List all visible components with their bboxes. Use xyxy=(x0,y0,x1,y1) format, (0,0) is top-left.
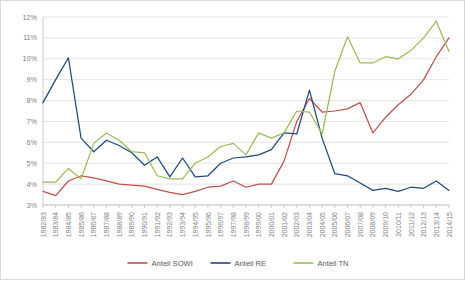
x-tick-label: 1993/94 xyxy=(179,212,186,237)
x-tick-label: 2004/05 xyxy=(319,212,326,237)
legend-label-anteil-re: Anteil RE xyxy=(235,259,267,268)
series-line-anteil-sowi xyxy=(43,38,449,196)
x-tick-label: 2003/04 xyxy=(306,212,313,237)
x-tick-label: 1992/93 xyxy=(166,212,173,237)
y-tick-label: 4% xyxy=(27,180,38,189)
x-tick-label: 1995/96 xyxy=(205,212,212,237)
x-tick-label: 2002/03 xyxy=(293,212,300,237)
y-tick-label: 5% xyxy=(27,159,38,168)
x-tick-label: 1998/99 xyxy=(243,212,250,237)
x-tick-label: 1989/90 xyxy=(128,212,135,237)
x-tick-label: 1999/00 xyxy=(255,212,262,237)
y-tick-label: 12% xyxy=(23,13,38,22)
x-tick-label: 1982/83 xyxy=(40,212,47,237)
chart-container: 3%4%5%6%7%8%9%10%11%12% 1982/831983/8419… xyxy=(0,0,465,280)
x-tick-label: 1987/88 xyxy=(103,212,110,237)
x-tick-label: 2009/10 xyxy=(382,212,389,237)
x-tick-label: 2008/09 xyxy=(369,212,376,237)
y-tick-label: 9% xyxy=(27,75,38,84)
legend-label-anteil-sowi: Anteil SOWI xyxy=(152,259,193,268)
y-tick-label: 11% xyxy=(23,33,37,42)
data-series-group xyxy=(43,21,449,195)
y-tick-label: 7% xyxy=(27,117,38,126)
axis-lines xyxy=(43,17,449,208)
x-tick-label: 1985/86 xyxy=(78,212,85,237)
x-tick-label: 2014/15 xyxy=(446,212,453,237)
x-tick-label: 1983/84 xyxy=(52,212,59,237)
y-tick-label: 8% xyxy=(27,96,38,105)
x-tick-label: 1988/89 xyxy=(116,212,123,237)
gridlines xyxy=(43,17,449,205)
series-line-anteil-tn xyxy=(43,21,449,182)
x-axis-tick-labels: 1982/831983/841984/851985/861986/871987/… xyxy=(40,212,453,237)
x-tick-label: 1991/92 xyxy=(154,212,161,237)
x-tick-label: 2011/12 xyxy=(408,212,415,237)
y-tick-label: 6% xyxy=(27,138,38,147)
x-tick-label: 1997/98 xyxy=(230,212,237,237)
x-tick-label: 2005/06 xyxy=(331,212,338,237)
x-tick-label: 1984/85 xyxy=(65,212,72,237)
x-tick-label: 2007/08 xyxy=(357,212,364,237)
y-tick-label: 10% xyxy=(23,54,38,63)
series-line-anteil-re xyxy=(43,58,449,192)
x-tick-label: 1986/87 xyxy=(90,212,97,237)
legend-label-anteil-tn: Anteil TN xyxy=(318,259,349,268)
y-tick-label: 3% xyxy=(27,201,38,210)
x-tick-label: 2006/07 xyxy=(344,212,351,237)
x-tick-label: 1994/95 xyxy=(192,212,199,237)
chart-legend: Anteil SOWIAnteil REAnteil TN xyxy=(128,259,349,268)
x-tick-label: 2010/11 xyxy=(395,212,402,237)
y-axis-tick-labels: 3%4%5%6%7%8%9%10%11%12% xyxy=(23,13,38,210)
x-tick-label: 1996/97 xyxy=(217,212,224,237)
line-chart: 3%4%5%6%7%8%9%10%11%12% 1982/831983/8419… xyxy=(1,1,466,281)
x-tick-label: 2001/02 xyxy=(281,212,288,237)
x-tick-label: 1990/91 xyxy=(141,212,148,237)
x-tick-label: 2000/01 xyxy=(268,212,275,237)
x-tick-label: 2013/14 xyxy=(433,212,440,237)
x-tick-label: 2012/13 xyxy=(420,212,427,237)
